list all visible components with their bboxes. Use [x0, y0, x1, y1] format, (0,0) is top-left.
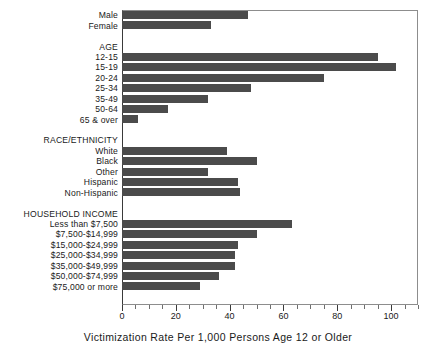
bar-row: $15,000-$24,999: [0, 240, 436, 250]
bar: [122, 21, 211, 29]
x-tick-minor: [243, 305, 244, 309]
group-spacer: [0, 31, 436, 41]
bar-row-label: White: [0, 146, 118, 156]
bar-row: $50,000-$74,999: [0, 271, 436, 281]
bar-row-label: $15,000-$24,999: [0, 240, 118, 250]
bar: [122, 230, 257, 238]
bar-track: [122, 177, 418, 187]
bar-rows-container: MaleFemaleAGE12-1515-1920-2425-3435-4950…: [0, 10, 436, 292]
bar-track: [122, 156, 418, 166]
bar-track: [122, 146, 418, 156]
x-tick-minor: [216, 305, 217, 309]
group-spacer: [0, 198, 436, 208]
bar: [122, 53, 378, 61]
x-tick-minor: [189, 305, 190, 309]
bar-row: Other: [0, 167, 436, 177]
bar-row-label: $35,000-$49,999: [0, 261, 118, 271]
bar-track: [122, 187, 418, 197]
x-tick-minor: [351, 305, 352, 309]
bar-track: [122, 240, 418, 250]
bar-track: [122, 229, 418, 239]
bar-row-label: $50,000-$74,999: [0, 271, 118, 281]
bar-row-label: 65 & over: [0, 115, 118, 125]
x-tick-minor: [378, 305, 379, 309]
bar: [122, 74, 324, 82]
bar-row: $25,000-$34,999: [0, 250, 436, 260]
bar-track: [122, 83, 418, 93]
bar: [122, 251, 235, 259]
bar-row-label: Less than $7,500: [0, 219, 118, 229]
bar-row-label: Hispanic: [0, 177, 118, 187]
bar-track: [122, 261, 418, 271]
bar-row-label: 35-49: [0, 94, 118, 104]
x-tick-minor: [270, 305, 271, 309]
bar: [122, 95, 208, 103]
group-heading-row: AGE: [0, 41, 436, 51]
x-tick-label: 20: [171, 311, 181, 322]
bar-track: [122, 94, 418, 104]
x-tick-minor: [310, 305, 311, 309]
bar-row: $75,000 or more: [0, 281, 436, 291]
bar-row: $7,500-$14,999: [0, 229, 436, 239]
x-axis-title: Victimization Rate Per 1,000 Persons Age…: [0, 331, 436, 343]
bar-row-label: 25-34: [0, 83, 118, 93]
bar-row-label: 50-64: [0, 104, 118, 114]
bar-track: [122, 167, 418, 177]
bar-row-label: Black: [0, 156, 118, 166]
bar-row: Female: [0, 20, 436, 30]
bar-track: [122, 104, 418, 114]
bar-row: White: [0, 146, 436, 156]
bar-track: [122, 10, 418, 20]
bar: [122, 188, 240, 196]
bar-row: Black: [0, 156, 436, 166]
bar-track: [122, 20, 418, 30]
bar-track: [122, 73, 418, 83]
bar-row: Non-Hispanic: [0, 187, 436, 197]
x-tick-minor: [418, 305, 419, 309]
bar-row: Male: [0, 10, 436, 20]
x-tick-minor: [324, 305, 325, 309]
bar: [122, 178, 238, 186]
bar: [122, 168, 208, 176]
x-tick-label: 80: [332, 311, 342, 322]
bar: [122, 105, 168, 113]
group-heading-row: HOUSEHOLD INCOME: [0, 208, 436, 218]
bar-row: Less than $7,500: [0, 219, 436, 229]
bar-track: [122, 271, 418, 281]
x-tick-minor: [149, 305, 150, 309]
bar: [122, 157, 257, 165]
bar-chart: MaleFemaleAGE12-1515-1920-2425-3435-4950…: [0, 0, 436, 356]
bar-row-label: Non-Hispanic: [0, 188, 118, 198]
bar-row: 50-64: [0, 104, 436, 114]
bar-track: [122, 219, 418, 229]
bar-row-label: 12-15: [0, 52, 118, 62]
group-heading-label: AGE: [0, 42, 118, 52]
group-heading-label: HOUSEHOLD INCOME: [0, 209, 118, 219]
bar: [122, 84, 251, 92]
group-heading-row: RACE/ETHNICITY: [0, 135, 436, 145]
bar: [122, 11, 248, 19]
bar: [122, 63, 396, 71]
bar-row-label: Other: [0, 167, 118, 177]
bar-row-label: Male: [0, 10, 118, 20]
bar: [122, 241, 238, 249]
x-tick-label: 40: [225, 311, 235, 322]
bar-track: [122, 114, 418, 124]
x-tick-minor: [203, 305, 204, 309]
bar-track: [122, 52, 418, 62]
bar: [122, 115, 138, 123]
x-tick-label: 60: [278, 311, 288, 322]
bar-row: 25-34: [0, 83, 436, 93]
bar-row: Hispanic: [0, 177, 436, 187]
bar-row: 35-49: [0, 94, 436, 104]
x-tick-minor: [162, 305, 163, 309]
bar-row-label: $75,000 or more: [0, 282, 118, 292]
bar: [122, 282, 200, 290]
bar: [122, 147, 227, 155]
bar-track: [122, 62, 418, 72]
x-tick-label: 0: [119, 311, 124, 322]
group-heading-label: RACE/ETHNICITY: [0, 135, 118, 145]
bar: [122, 272, 219, 280]
x-tick-minor: [364, 305, 365, 309]
x-tick-minor: [405, 305, 406, 309]
